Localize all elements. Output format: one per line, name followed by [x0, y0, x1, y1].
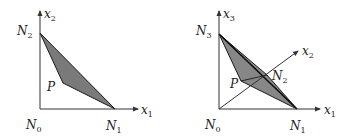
- left-N2-label: N2: [16, 24, 33, 40]
- left-x2-axis-label: x2: [44, 7, 56, 23]
- diagram-canvas: x2 x1 N2 P N0 N1 x3 x2 x1 N3 N2 P N0 N1: [0, 0, 356, 140]
- right-diagram: x3 x2 x1 N3 N2 P N0 N1: [195, 7, 336, 135]
- right-x1-axis-label: x1: [324, 103, 336, 119]
- left-P-label: P: [46, 80, 56, 94]
- right-N1-label: N1: [289, 119, 306, 135]
- right-N3-label: N3: [195, 24, 212, 40]
- left-diagram: x2 x1 N2 P N0 N1: [16, 7, 153, 135]
- left-shaded-triangle: [40, 33, 115, 109]
- left-N1-label: N1: [105, 119, 122, 135]
- right-N2-label: N2: [271, 69, 288, 85]
- right-N0-label: N0: [204, 118, 221, 134]
- left-x1-axis-label: x1: [141, 103, 153, 119]
- left-N0-label: N0: [25, 118, 42, 134]
- right-x3-axis-label: x3: [223, 7, 235, 23]
- right-edge-N3-N1: [219, 34, 297, 109]
- right-x2-axis-label: x2: [302, 44, 314, 60]
- right-P-label: P: [229, 77, 239, 91]
